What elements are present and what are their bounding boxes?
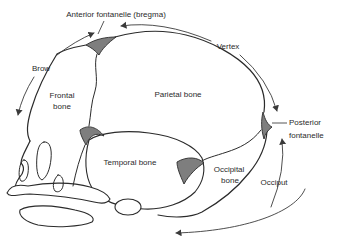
fetal-skull-diagram: Anterior fontanelle (bregma) Vertex Brow… <box>0 0 337 244</box>
occiput-up-arrow <box>271 139 283 207</box>
frontal-lower-edge <box>73 145 85 186</box>
lambdoid-suture <box>200 130 261 162</box>
label-occipital-bone-line2: bone <box>221 176 239 185</box>
vertex-to-posterior-arrow <box>240 55 277 111</box>
label-parietal-bone: Parietal bone <box>154 90 202 99</box>
anterior-fontanelle-leader-line <box>98 21 104 34</box>
mandible-shape <box>20 206 94 227</box>
label-brow: Brow <box>32 64 50 73</box>
label-frontal-bone-line2: bone <box>53 102 71 111</box>
label-occiput: Occiput <box>260 178 288 187</box>
label-posterior-fontanelle-line2: fontanelle <box>289 131 324 140</box>
label-occipital-bone-line1: Occipital <box>214 165 245 174</box>
label-vertex: Vertex <box>217 42 240 51</box>
occiput-down-arrow <box>176 189 305 233</box>
skull-dome-right-edge <box>115 31 264 112</box>
orbit-outline-large <box>37 142 52 180</box>
label-anterior-fontanelle: Anterior fontanelle (bregma) <box>66 10 166 19</box>
ear-canal-opening <box>115 199 141 215</box>
label-frontal-bone-line1: Frontal <box>50 91 75 100</box>
label-temporal-bone: Temporal bone <box>104 158 157 167</box>
anterior-fontanelle-shape <box>86 37 116 55</box>
label-posterior-fontanelle-line1: Posterior <box>289 118 321 127</box>
coronal-suture <box>89 54 97 126</box>
fetal-skull-svg: Anterior fontanelle (bregma) Vertex Brow… <box>0 0 337 244</box>
